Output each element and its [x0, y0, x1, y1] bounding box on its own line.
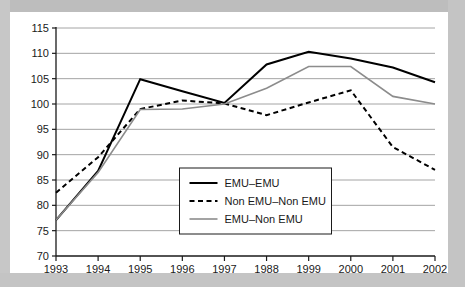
chart-card: 707580859095100105110115 199319941995199… — [10, 12, 448, 273]
x-axis-tick-label: 2002 — [423, 263, 447, 273]
y-axis-tick-label: 95 — [37, 123, 49, 135]
x-axis-tick-label: 1999 — [296, 263, 320, 273]
x-axis-tick-label: 1993 — [44, 263, 68, 273]
y-axis-tick-label: 105 — [31, 73, 49, 85]
y-axis-tick-label: 70 — [37, 250, 49, 262]
frame-band-top — [0, 0, 465, 12]
x-axis-tick-label: 1995 — [128, 263, 152, 273]
frame-band-right — [448, 0, 465, 287]
y-axis-tick-label: 85 — [37, 174, 49, 186]
y-axis-tick-label: 90 — [37, 149, 49, 161]
x-axis-tick-label: 1994 — [86, 263, 110, 273]
y-axis-tick-label: 100 — [31, 98, 49, 110]
y-axis-tick-label: 80 — [37, 199, 49, 211]
legend-item-label: Non EMU–Non EMU — [225, 195, 327, 207]
x-axis-tick-label: 2001 — [381, 263, 405, 273]
frame-band-bottom — [0, 273, 465, 287]
legend-item-label: EMU–EMU — [225, 177, 280, 189]
y-axis-tick-label: 110 — [31, 47, 49, 59]
x-axis-tick-label: 1988 — [254, 263, 278, 273]
x-axis-tick-label: 1997 — [212, 263, 236, 273]
legend-item-label: EMU–Non EMU — [225, 213, 303, 225]
x-axis-tick-label: 1996 — [170, 263, 194, 273]
chart-legend: EMU–EMUNon EMU–Non EMUEMU–Non EMU — [180, 168, 332, 234]
frame-band-left — [0, 0, 10, 287]
x-axis-tick-label: 2000 — [339, 263, 363, 273]
screenshot-root: 707580859095100105110115 199319941995199… — [0, 0, 465, 287]
y-axis-tick-label: 75 — [37, 225, 49, 237]
line-chart: 707580859095100105110115 199319941995199… — [10, 12, 448, 273]
y-axis-tick-label: 115 — [31, 22, 49, 34]
